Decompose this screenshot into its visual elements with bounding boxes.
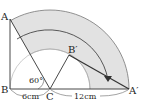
label-C: C: [46, 92, 54, 102]
label-B: B: [1, 85, 8, 95]
length-ca-prime: 12cm: [74, 93, 96, 101]
angle-label: 60°: [29, 77, 43, 85]
label-B-prime: B′: [68, 45, 78, 55]
label-A-prime: A′: [129, 86, 139, 96]
length-bc: 6cm: [22, 93, 39, 101]
label-A: A: [1, 12, 8, 22]
segment-CB-prime: [50, 55, 69, 89]
